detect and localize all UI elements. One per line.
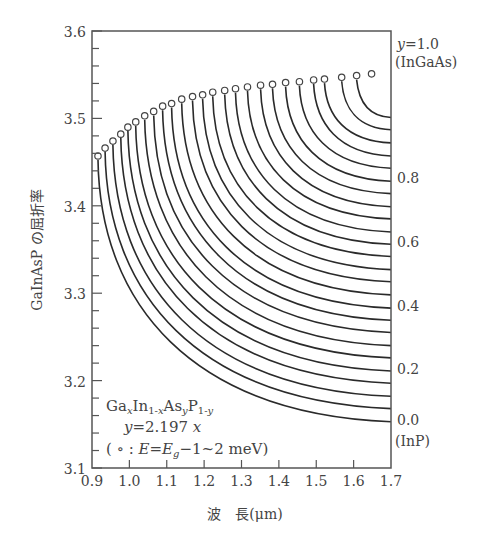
band-edge-marker xyxy=(141,113,147,119)
band-edge-marker xyxy=(199,92,205,98)
dispersion-curve-y-0-68 xyxy=(261,89,391,207)
y-axis-ticks: 3.13.23.33.43.53.6 xyxy=(64,24,102,477)
composition-label: 0.4 xyxy=(397,298,419,314)
y-tick-label: 3.4 xyxy=(64,199,86,215)
band-edge-marker xyxy=(159,103,165,109)
band-edge-marker xyxy=(296,78,302,84)
dispersion-curve-y-0-96 xyxy=(357,80,391,118)
band-edge-marker xyxy=(179,96,185,102)
x-tick-label: 1.0 xyxy=(118,473,140,489)
composition-label: y=1.0 xyxy=(396,36,439,52)
dispersion-curve-y-0-52 xyxy=(213,96,391,256)
dispersion-curve-y-0-16 xyxy=(128,131,391,371)
refractive-index-chart: 3.13.23.33.43.53.6 0.91.01.11.21.31.41.5… xyxy=(0,0,496,546)
y-tick-label: 3.3 xyxy=(64,286,86,302)
band-edge-marker xyxy=(221,87,227,93)
y-tick-label: 3.5 xyxy=(64,111,86,127)
x-tick-label: 1.1 xyxy=(156,473,178,489)
band-edge-marker xyxy=(338,74,344,80)
x-tick-label: 1.7 xyxy=(380,473,402,489)
band-edge-marker xyxy=(269,81,275,87)
x-tick-label: 0.9 xyxy=(81,473,103,489)
y-axis-label: GaInAsP の屈折率 xyxy=(29,189,45,310)
band-edge-marker xyxy=(189,93,195,99)
composition-label: 0.2 xyxy=(397,361,419,377)
band-edge-marker xyxy=(257,82,263,88)
composition-label: (InGaAs) xyxy=(395,54,457,70)
band-edge-marker xyxy=(150,108,156,114)
band-edge-marker xyxy=(102,145,108,151)
dispersion-curves xyxy=(98,80,391,422)
annotation-relation: y=2.197 x xyxy=(123,418,202,436)
annotation-box: GaxIn1-xAsyP1-y y=2.197 x ( ∘ : E=Eg−1~2… xyxy=(106,397,268,459)
dispersion-curve-y-0-36 xyxy=(172,108,391,309)
band-edge-marker xyxy=(282,79,288,85)
dispersion-curve-y-0-48 xyxy=(203,99,391,270)
annotation-formula: GaxIn1-xAsyP1-y xyxy=(106,397,214,416)
band-edge-marker xyxy=(118,131,124,137)
composition-labels: y=1.0(InGaAs)0.80.60.40.20.0(InP) xyxy=(395,36,457,449)
x-axis-label: 波 長(μm) xyxy=(207,506,282,522)
composition-label: 0.0 xyxy=(397,412,419,428)
band-edge-marker xyxy=(125,124,131,130)
band-edge-marker xyxy=(310,77,316,83)
band-edge-marker xyxy=(210,89,216,95)
band-edge-marker xyxy=(232,85,238,91)
x-axis-ticks: 0.91.01.11.21.31.41.51.61.7 xyxy=(81,460,402,489)
band-edge-marker xyxy=(353,72,359,78)
y-tick-label: 3.2 xyxy=(64,374,86,390)
band-edge-marker xyxy=(133,119,139,125)
annotation-marker-note: ( ∘ : E=Eg−1~2 meV) xyxy=(106,440,268,459)
band-edge-marker xyxy=(368,71,374,77)
composition-label: 0.6 xyxy=(397,234,419,250)
x-tick-label: 1.3 xyxy=(230,473,252,489)
composition-label: 0.8 xyxy=(397,170,419,186)
dispersion-curve-y-0-88 xyxy=(325,83,392,143)
x-tick-label: 1.6 xyxy=(342,473,364,489)
dispersion-curve-y-0-60 xyxy=(236,93,392,232)
x-tick-label: 1.5 xyxy=(305,473,327,489)
x-tick-label: 1.4 xyxy=(268,473,290,489)
band-edge-marker xyxy=(244,84,250,90)
y-tick-label: 3.6 xyxy=(64,24,86,40)
composition-label: (InP) xyxy=(395,433,430,449)
band-edge-marker xyxy=(168,100,174,106)
band-edge-marker xyxy=(321,76,327,82)
x-tick-label: 1.2 xyxy=(193,473,215,489)
band-edge-marker xyxy=(110,138,116,144)
